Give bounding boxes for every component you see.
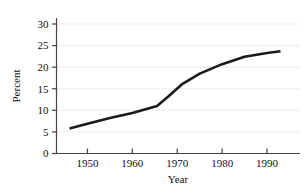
y-axis-tick-label: 10 (38, 104, 50, 116)
y-axis-tick-label: 30 (38, 18, 50, 30)
x-axis-ticks-group: 19501960197019801990 (76, 149, 278, 169)
y-axis-tick-label: 20 (38, 61, 50, 73)
gridlines-group (57, 24, 301, 132)
y-axis-tick-label: 0 (43, 147, 49, 159)
line-chart: 051015202530 19501960197019801990 Year P… (0, 0, 308, 188)
y-axis-tick-label: 5 (43, 126, 49, 138)
x-axis-tick-label: 1990 (256, 157, 279, 169)
chart-figure: 051015202530 19501960197019801990 Year P… (0, 0, 308, 188)
x-axis-tick-label: 1950 (76, 157, 99, 169)
y-axis-ticks-group: 051015202530 (38, 18, 57, 160)
y-axis-tick-label: 15 (38, 83, 50, 95)
x-axis-tick-label: 1970 (166, 157, 189, 169)
x-axis-title: Year (168, 173, 189, 185)
x-axis-tick-label: 1980 (211, 157, 234, 169)
y-axis-tick-label: 25 (38, 39, 50, 51)
data-series-group (70, 51, 281, 128)
x-axis-tick-label: 1960 (121, 157, 144, 169)
data-line (70, 51, 281, 128)
y-axis-title: Percent (10, 70, 22, 103)
